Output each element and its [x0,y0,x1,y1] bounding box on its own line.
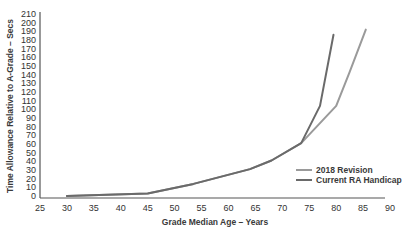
y-tick-label: 170 [21,44,36,54]
x-tick-label: 75 [304,203,314,213]
y-axis-title: Time Allowance Relative to A-Grade – Sec… [5,19,15,193]
y-tick-label: 180 [21,35,36,45]
y-tick-label: 210 [21,9,36,19]
x-tick-label: 80 [331,203,341,213]
y-tick-label: 40 [26,156,36,166]
x-tick-label: 50 [170,203,180,213]
y-tick-label: 70 [26,130,36,140]
legend-label: 2018 Revision [316,165,373,175]
chart-canvas: 0102030405060708090100110120130140150160… [0,0,406,238]
legend: 2018 RevisionCurrent RA Handicap [296,165,402,185]
y-tick-label: 150 [21,61,36,71]
y-tick-label: 110 [22,96,36,106]
y-tick-label: 130 [21,78,36,88]
x-tick-label: 70 [277,203,287,213]
x-axis-title: Grade Median Age – Years [162,217,269,227]
x-tick-label: 30 [62,203,72,213]
y-tick-label: 0 [31,191,36,201]
x-tick-label: 55 [197,203,207,213]
legend-label: Current RA Handicap [316,175,402,185]
y-tick-label: 200 [21,18,36,28]
y-tick-label: 10 [26,182,36,192]
y-tick-label: 90 [26,113,36,123]
x-tick-label: 60 [223,203,233,213]
x-tick-label: 85 [358,203,368,213]
x-tick-label: 35 [89,203,99,213]
y-tick-label: 80 [26,122,36,132]
x-tick-label: 40 [116,203,126,213]
y-tick-label: 100 [21,104,36,114]
y-tick-label: 20 [26,174,36,184]
x-tick-label: 90 [385,203,395,213]
y-tick-label: 190 [21,26,36,36]
y-tick-label: 60 [26,139,36,149]
x-tick-label: 65 [250,203,260,213]
y-tick-label: 30 [26,165,36,175]
series-line-1 [67,35,334,196]
y-tick-label: 120 [21,87,36,97]
y-axis: 0102030405060708090100110120130140150160… [21,9,40,201]
y-tick-label: 160 [21,52,36,62]
y-tick-label: 50 [26,148,36,158]
line-chart: 0102030405060708090100110120130140150160… [0,0,406,238]
x-tick-label: 25 [35,203,45,213]
x-axis: 2530354045505560657075808590 [35,198,395,213]
y-tick-label: 140 [21,70,36,80]
x-tick-label: 45 [143,203,153,213]
